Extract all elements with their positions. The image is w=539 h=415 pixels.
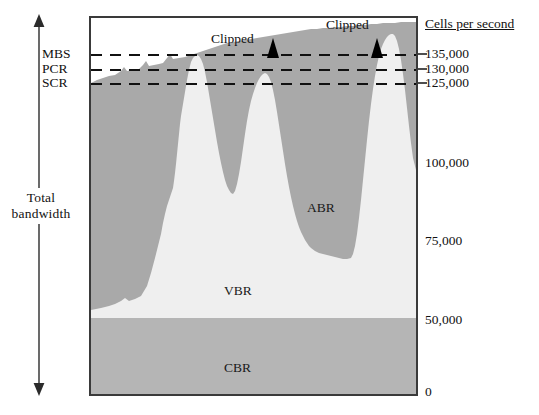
scale-tick-0: 0 [425, 385, 432, 399]
total-bandwidth-caption: Total bandwidth [0, 188, 82, 224]
total-bandwidth-caption-line1: Total [0, 190, 82, 206]
scale-tick-125000: 125,000 [425, 76, 469, 90]
scale-tick-50000: 50,000 [425, 313, 462, 327]
scale-tick-75000: 75,000 [425, 234, 462, 248]
scale-tick-135000: 135,000 [425, 47, 469, 61]
threshold-label-scr: SCR [42, 76, 88, 90]
threshold-label-mbs: MBS [42, 47, 88, 61]
plot-area: ABR VBR CBR [89, 16, 418, 396]
clipped-annotation-2: Clipped [326, 18, 369, 32]
stacked-area-chart [91, 18, 416, 394]
region-label-abr: ABR [307, 201, 335, 215]
bandwidth-allocation-figure: Total bandwidth MBS PCR SCR Cells per se… [0, 0, 539, 415]
clipped-annotation-1: Clipped [211, 32, 254, 46]
threshold-label-pcr: PCR [42, 62, 88, 76]
region-label-vbr: VBR [224, 284, 252, 298]
region-label-cbr: CBR [224, 361, 251, 375]
total-bandwidth-caption-line2: bandwidth [0, 206, 82, 222]
scale-tick-100000: 100,000 [425, 156, 469, 170]
scale-tick-130000: 130,000 [425, 62, 469, 76]
area-cbr [91, 318, 416, 394]
scale-title: Cells per second [425, 16, 514, 31]
